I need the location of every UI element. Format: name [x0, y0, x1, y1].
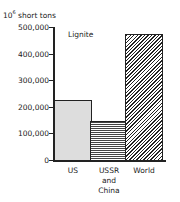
y-tick-label: 300,000 [18, 76, 49, 85]
y-tick-label: 100,000 [18, 129, 49, 138]
x-category-label: World [127, 166, 161, 176]
bar-ussr-china [90, 121, 126, 161]
x-axis [53, 160, 166, 162]
x-category-label: US [58, 166, 88, 176]
y-tick-label: 500,000 [18, 23, 49, 32]
y-axis [53, 27, 55, 161]
x-category-label: USSR and China [93, 166, 125, 196]
chart-title: Lignite [68, 30, 93, 39]
y-tick-label: 400,000 [18, 49, 49, 58]
bar-world [125, 34, 163, 161]
y-axis-unit: 106 short tons [3, 9, 56, 20]
bar-us [54, 100, 92, 161]
y-tick-label: 200,000 [18, 102, 49, 111]
